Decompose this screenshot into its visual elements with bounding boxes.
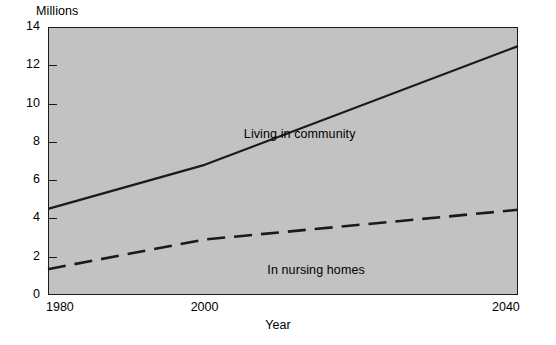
y-tick-label: 12 <box>0 58 40 71</box>
x-axis-title: Year <box>0 318 556 333</box>
y-tick-label: 14 <box>0 20 40 33</box>
y-tick-label: 10 <box>0 97 40 110</box>
y-axis-title: Millions <box>36 4 78 19</box>
y-tick-label: 2 <box>0 250 40 263</box>
y-tick-label: 0 <box>0 288 40 301</box>
x-tick-label: 1980 <box>46 300 74 314</box>
x-tick-label: 2000 <box>191 300 219 314</box>
series-label-living-in-community: Living in community <box>244 127 356 142</box>
y-tick-label: 6 <box>0 173 40 186</box>
series-line-2 <box>48 210 518 269</box>
chart-figure: Millions 02468101214 198020002040 Living… <box>0 0 556 345</box>
series-label-in-nursing-homes: In nursing homes <box>267 263 365 278</box>
y-tick-label: 4 <box>0 211 40 224</box>
y-tick-label: 8 <box>0 135 40 148</box>
x-tick-label: 2040 <box>492 300 520 314</box>
series-lines <box>48 27 518 295</box>
